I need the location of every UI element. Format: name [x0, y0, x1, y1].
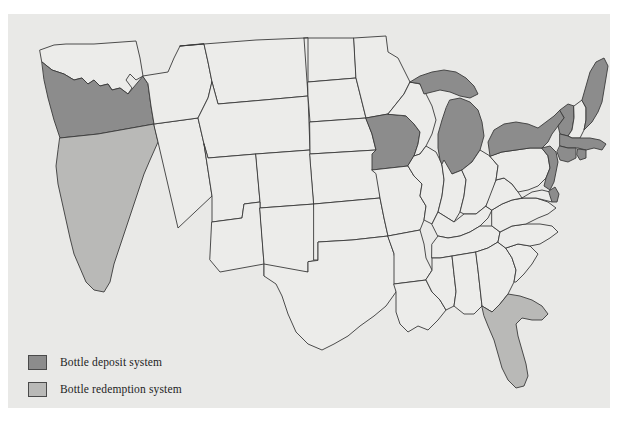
legend-item-deposit: Bottle deposit system	[28, 352, 288, 373]
state-colorado	[256, 150, 314, 208]
state-california	[56, 124, 158, 292]
state-nebraska	[310, 118, 376, 154]
figure-canvas: Bottle deposit system Bottle redemption …	[0, 0, 624, 429]
map-panel: Bottle deposit system Bottle redemption …	[8, 14, 610, 408]
state-maine	[582, 58, 608, 130]
state-north-dakota	[304, 38, 356, 82]
legend-label-deposit: Bottle deposit system	[60, 357, 162, 369]
state-connecticut	[557, 146, 576, 162]
map-svg	[8, 14, 610, 408]
us-choropleth-map	[8, 14, 610, 408]
legend-item-redemption: Bottle redemption system	[28, 379, 288, 400]
legend-swatch-deposit	[28, 355, 47, 370]
state-rhode-island	[577, 149, 586, 160]
map-legend: Bottle deposit system Bottle redemption …	[28, 352, 288, 406]
state-arkansas	[388, 230, 432, 284]
legend-label-redemption: Bottle redemption system	[60, 384, 182, 396]
state-kansas	[310, 150, 380, 204]
legend-swatch-redemption	[28, 382, 47, 397]
